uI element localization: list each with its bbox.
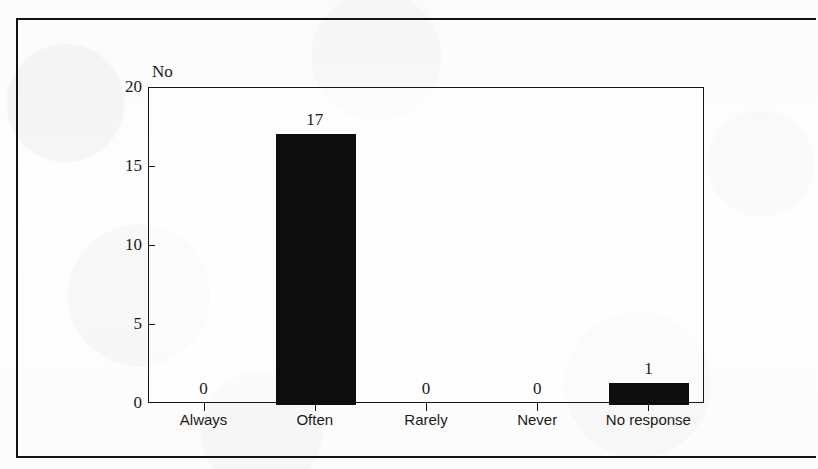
figure-border bbox=[16, 18, 816, 458]
figure-title-remnant bbox=[150, 0, 580, 3]
